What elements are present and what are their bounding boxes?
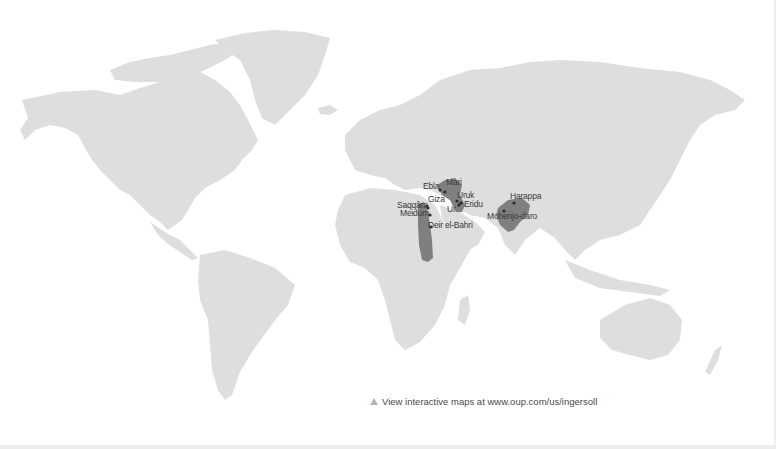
site-label-mari: Mari: [446, 178, 462, 187]
site-dot-eridu: [459, 201, 462, 204]
site-dot-harappa: [512, 201, 515, 204]
landmass-iceland: [318, 105, 338, 115]
landmass-south-america: [198, 250, 295, 400]
landmass-new-zealand: [705, 345, 722, 375]
landmass-arctic-islands: [110, 42, 240, 82]
site-label-ebla: Ebla: [423, 182, 439, 191]
interactive-maps-link[interactable]: View interactive maps at www.oup.com/us/…: [370, 396, 597, 407]
world-map: [0, 0, 776, 449]
landmass-madagascar: [458, 295, 470, 325]
triangle-icon: [370, 398, 378, 405]
landmass-north-america: [20, 72, 258, 230]
bottom-strip: [0, 445, 776, 449]
site-label-mohenjo-daro: Mohenjo-daro: [487, 212, 537, 221]
site-label-ur: Ur: [447, 205, 456, 214]
site-label-deir-el-bahri: Deir el-Bahri: [428, 221, 473, 230]
site-label-harappa: Harappa: [510, 192, 541, 201]
site-label-eridu: Eridu: [464, 200, 483, 209]
caption-text[interactable]: View interactive maps at www.oup.com/us/…: [382, 396, 597, 407]
landmass-australia: [600, 298, 682, 360]
site-label-meidum: Meidum: [400, 209, 429, 218]
site-label-giza: Giza: [428, 195, 445, 204]
landmass-central-america: [150, 222, 198, 260]
landmass-southeast-asia-islands: [565, 260, 670, 296]
